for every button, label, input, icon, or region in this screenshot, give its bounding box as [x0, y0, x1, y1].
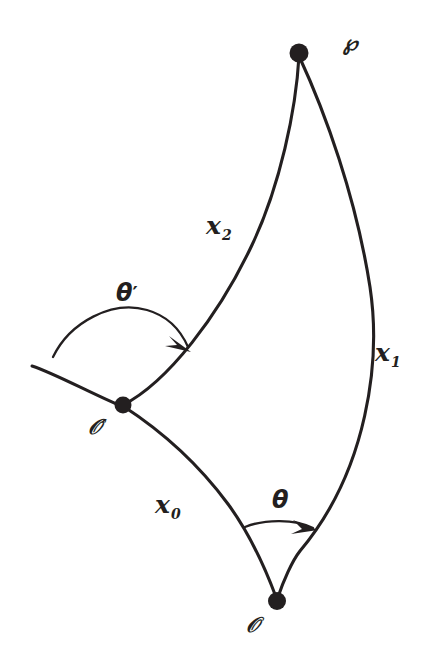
curve-label-x1-base: 𝒙 [375, 338, 390, 367]
curve-label-x0-subscript: 0 [171, 506, 181, 522]
curve-label-x2-subscript: 2 [222, 227, 232, 243]
curve-label-x2-base: 𝒙 [206, 211, 221, 240]
curve-label-x0-base: 𝒙 [155, 490, 170, 519]
curve-label-x1-subscript: 1 [391, 354, 401, 370]
angle-label-theta-prime-mark: ′ [133, 282, 138, 306]
point-label-o: 𝒪 [246, 614, 260, 635]
curve-label-x0: 𝒙0 [155, 492, 180, 517]
angle-label-theta-prime-base: θ [116, 279, 133, 307]
curve-label-x1: 𝒙1 [375, 340, 400, 365]
angle-label-theta-base: θ [272, 486, 289, 514]
curve-reference-tail [32, 366, 121, 406]
angle-label-theta: θ [272, 488, 289, 512]
vertex-dot-o-prime [115, 397, 132, 414]
point-label-o-prime: 𝒪′ [88, 416, 108, 437]
vertex-dot-p [290, 44, 309, 63]
point-label-p: ℘ [343, 32, 359, 53]
figure-canvas: ℘ 𝒪′ 𝒪 𝒙2 𝒙1 𝒙0 θ′ θ [0, 0, 424, 669]
angle-label-theta-prime: θ′ [116, 281, 138, 305]
curve-label-x2: 𝒙2 [206, 213, 231, 238]
curve-x1 [278, 56, 373, 597]
vertex-dot-o [268, 592, 286, 610]
angle-arc-theta-prime [53, 308, 188, 357]
curve-x0 [123, 406, 276, 597]
diagram-svg [0, 0, 424, 669]
